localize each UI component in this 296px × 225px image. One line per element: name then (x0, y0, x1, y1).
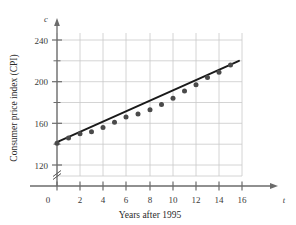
x-tick-labels: 0 2 4 6 8 10 12 14 16 (46, 195, 247, 205)
data-point (55, 141, 60, 146)
x-axis-variable-label: t (283, 195, 286, 205)
data-point (89, 129, 94, 134)
y-tick-label: 160 (35, 119, 49, 129)
y-tick-labels: 240 200 160 120 (35, 36, 49, 171)
data-point (159, 102, 164, 107)
data-point (101, 125, 106, 130)
x-tick-label: 14 (215, 195, 225, 205)
data-point (228, 63, 233, 68)
x-tick-label: 2 (78, 195, 83, 205)
data-point (171, 96, 176, 101)
data-point (112, 120, 117, 125)
x-tick-label: 10 (169, 195, 179, 205)
x-tick-label: 4 (101, 195, 106, 205)
x-tick-label: 12 (192, 195, 201, 205)
cpi-scatter-plot: 240 200 160 120 0 2 4 6 8 10 12 14 16 c … (0, 0, 296, 225)
data-point (136, 111, 141, 116)
data-point (205, 75, 210, 80)
y-axis (52, 18, 62, 186)
y-tick-label: 120 (35, 161, 49, 171)
y-axis-title: Consumer price index (CPI) (9, 54, 20, 161)
data-point (124, 115, 129, 120)
x-tick-label: 0 (46, 195, 51, 205)
x-tick-label: 8 (148, 195, 153, 205)
x-tick-label: 6 (124, 195, 129, 205)
data-point (66, 136, 71, 141)
data-point (194, 82, 199, 87)
x-tick-label: 16 (238, 195, 248, 205)
chart-gridlines (57, 33, 242, 176)
data-point (78, 131, 83, 136)
chart-figure: 240 200 160 120 0 2 4 6 8 10 12 14 16 c … (0, 0, 296, 225)
data-point (217, 70, 222, 75)
y-axis-variable-label: c (44, 14, 48, 24)
y-tick-label: 200 (35, 77, 49, 87)
y-tick-label: 240 (35, 36, 49, 46)
x-axis (30, 182, 278, 191)
regression-line (57, 61, 239, 142)
x-axis-title: Years after 1995 (119, 210, 182, 220)
data-point (148, 107, 153, 112)
data-point (182, 89, 187, 94)
